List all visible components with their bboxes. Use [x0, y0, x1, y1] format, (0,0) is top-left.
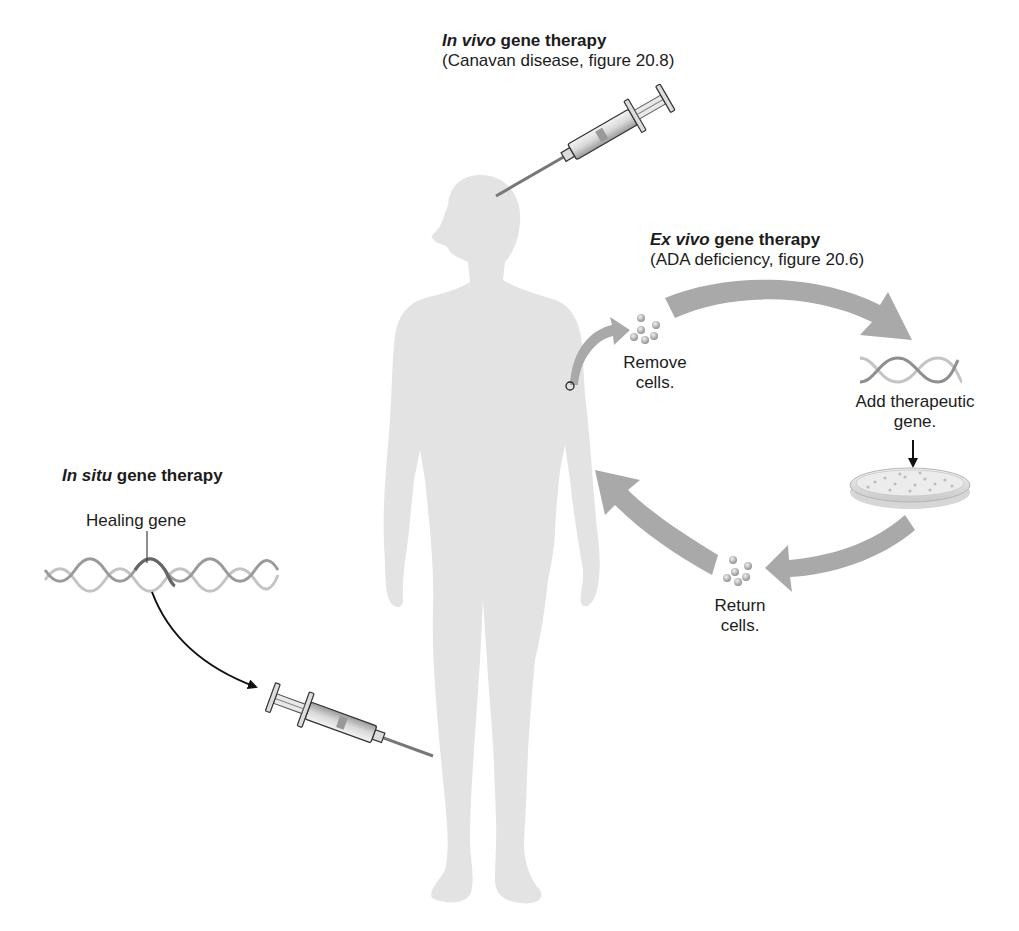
return-cells-line1: Return	[700, 596, 780, 616]
in-situ-title-italic: In situ	[62, 466, 112, 485]
remove-cells-line2: cells.	[610, 373, 700, 393]
in-vivo-subtitle: (Canavan disease, figure 20.8)	[442, 51, 674, 71]
add-gene-line2: gene.	[830, 412, 1000, 432]
in-vivo-title-italic: In vivo	[442, 31, 496, 50]
return-cells-label: Return cells.	[700, 596, 780, 636]
in-vivo-title: In vivo gene therapy	[442, 31, 674, 51]
return-arc-arrow	[765, 515, 915, 592]
healing-gene-label: Healing gene	[86, 511, 186, 531]
returned-cells-icon	[723, 556, 752, 586]
in-situ-title-rest: gene therapy	[112, 466, 223, 485]
back-to-body-arc-arrow	[595, 470, 718, 575]
in-situ-label: In situ gene therapy	[62, 466, 223, 486]
ex-vivo-title-rest: gene therapy	[710, 230, 821, 249]
in-situ-delivery-arrow	[152, 592, 256, 687]
ex-vivo-title-italic: Ex vivo	[650, 230, 710, 249]
add-therapeutic-gene-label: Add therapeutic gene.	[830, 392, 1000, 432]
in-situ-title: In situ gene therapy	[62, 466, 223, 486]
in-vivo-syringe-icon	[487, 81, 676, 211]
removed-cells-icon	[630, 314, 660, 344]
healing-gene-dna-icon	[45, 559, 278, 592]
remove-cells-line1: Remove	[610, 353, 700, 373]
add-gene-line1: Add therapeutic	[830, 392, 1000, 412]
top-arc-arrow	[665, 280, 912, 340]
ex-vivo-label: Ex vivo gene therapy (ADA deficiency, fi…	[650, 230, 864, 270]
human-body-silhouette	[384, 175, 600, 903]
ex-vivo-cycle-arrows	[570, 280, 915, 592]
ex-vivo-title: Ex vivo gene therapy	[650, 230, 864, 250]
return-cells-line2: cells.	[700, 616, 780, 636]
remove-cells-label: Remove cells.	[610, 353, 700, 393]
in-situ-syringe-icon	[264, 680, 439, 773]
petri-dish-icon	[850, 468, 970, 509]
in-vivo-title-rest: gene therapy	[496, 31, 607, 50]
ex-vivo-subtitle: (ADA deficiency, figure 20.6)	[650, 250, 864, 270]
therapeutic-gene-dna-icon	[860, 358, 962, 382]
in-vivo-label: In vivo gene therapy (Canavan disease, f…	[442, 31, 674, 71]
